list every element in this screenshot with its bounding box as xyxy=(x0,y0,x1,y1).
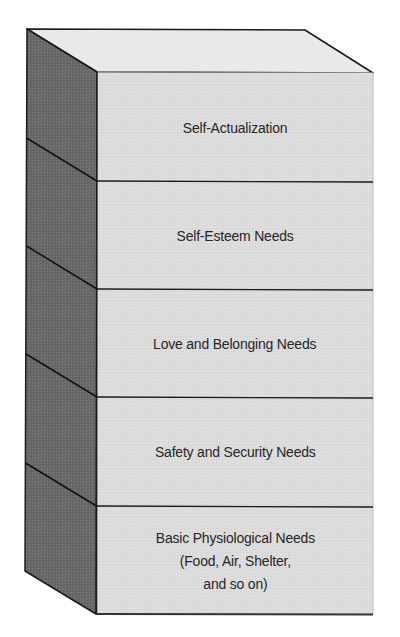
layer-love-belonging: Love and Belonging Needs xyxy=(97,289,373,397)
block-side-face xyxy=(25,29,97,614)
layer-label: Self-Esteem Needs xyxy=(176,224,293,247)
layer-safety-security: Safety and Security Needs xyxy=(97,397,373,506)
layer-self-actualization: Self-Actualization xyxy=(97,73,373,181)
front-bottom-edge xyxy=(96,614,373,615)
layer-label: Self-Actualization xyxy=(183,116,288,139)
layer-self-esteem: Self-Esteem Needs xyxy=(97,181,373,289)
layer-physiological: Basic Physiological Needs (Food, Air, Sh… xyxy=(97,506,373,614)
layer-label: Love and Belonging Needs xyxy=(153,332,316,355)
layer-label: Safety and Security Needs xyxy=(155,440,316,463)
layer-label: Basic Physiological Needs (Food, Air, Sh… xyxy=(155,526,314,595)
